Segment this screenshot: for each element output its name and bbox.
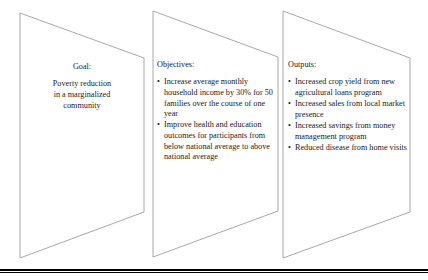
list-item-label: Improve health and education outcomes fo… <box>164 120 270 161</box>
diagram-canvas: Goal: Poverty reduction in a marginalize… <box>0 0 428 280</box>
list-item: • Increased savings from money managemen… <box>288 121 410 142</box>
panel-objectives-text: Objectives: • Increase average monthly h… <box>157 60 277 164</box>
list-item: • Increased crop yield from new agricult… <box>288 77 410 98</box>
panel-objectives-heading: Objectives: <box>157 60 277 70</box>
bullet-icon: • <box>288 121 291 132</box>
divider-line-thick <box>0 269 428 271</box>
list-item: • Increase average monthly household inc… <box>157 77 277 120</box>
list-item-label: Increase average monthly household incom… <box>164 77 273 118</box>
list-item: • Increased sales from local market pres… <box>288 99 410 120</box>
divider-line-thin <box>0 272 428 273</box>
bullet-icon: • <box>288 143 291 154</box>
panel-outputs-heading: Outputs: <box>288 60 410 70</box>
panel-goal-body: Poverty reduction in a marginalized comm… <box>20 79 144 111</box>
list-item-label: Increased savings from money management … <box>295 121 395 141</box>
panel-goal-body-line: community <box>20 101 144 112</box>
list-item-label: Reduced disease from home visits <box>295 143 407 152</box>
list-item-label: Increased crop yield from new agricultur… <box>295 77 395 97</box>
bullet-icon: • <box>288 99 291 110</box>
panel-goal-body-line: in a marginalized <box>20 90 144 101</box>
panel-outputs-bullet-list: • Increased crop yield from new agricult… <box>288 77 410 153</box>
list-item: • Improve health and education outcomes … <box>157 120 277 163</box>
bullet-icon: • <box>157 120 160 131</box>
bullet-icon: • <box>288 77 291 88</box>
bottom-divider <box>0 269 428 273</box>
panel-goal-text: Goal: Poverty reduction in a marginalize… <box>20 62 144 112</box>
panel-goal-heading: Goal: <box>20 62 144 72</box>
list-item-label: Increased sales from local market presen… <box>295 99 405 119</box>
bullet-icon: • <box>157 77 160 88</box>
panel-objectives-bullet-list: • Increase average monthly household inc… <box>157 77 277 163</box>
panel-shape-goal <box>20 13 144 258</box>
list-item: • Reduced disease from home visits <box>288 143 410 154</box>
panel-goal-body-line: Poverty reduction <box>20 79 144 90</box>
panel-outputs-text: Outputs: • Increased crop yield from new… <box>288 60 410 154</box>
